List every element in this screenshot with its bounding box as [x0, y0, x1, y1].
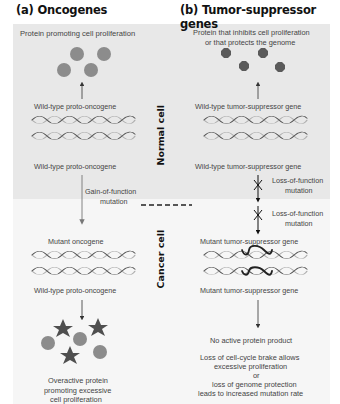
oncogene-normal-dna-top: [32, 116, 135, 124]
oncogene-cancer-dna-bottom: [32, 267, 135, 275]
oncogene-proteins: [57, 47, 111, 77]
suppressor-normal-dna-bottom: [204, 132, 307, 140]
suppressor-normal-dna-top: [204, 116, 307, 124]
overactive-proteins: [41, 318, 108, 364]
loss-of-function-arrows: [254, 175, 262, 232]
suppressor-proteins: [221, 48, 285, 72]
suppressor-cancer-dna-bottom: [204, 267, 307, 275]
suppressor-cancer-dna-top: [204, 246, 307, 259]
oncogene-cancer-dna-top: [32, 251, 135, 259]
oncogene-normal-dna-bottom: [32, 132, 135, 140]
diagram-graphics: [0, 0, 340, 404]
